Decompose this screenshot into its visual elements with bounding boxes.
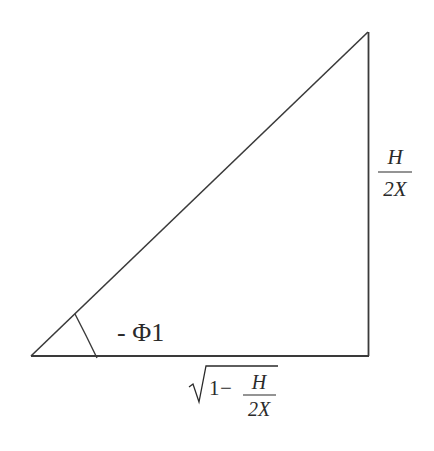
angle-label: - Φ1 — [117, 318, 164, 347]
horizontal-side-radical: 1 − H 2X — [189, 366, 278, 420]
radical-fraction-numerator: H — [251, 371, 268, 393]
radical-leading-one: 1 — [209, 376, 220, 400]
right-triangle-diagram: - Φ1 H 2X 1 − H 2X — [0, 0, 434, 451]
vertical-fraction-denominator: 2X — [383, 177, 408, 201]
angle-arc — [75, 314, 97, 358]
vertical-fraction-numerator: H — [386, 145, 404, 169]
hypotenuse-line — [31, 32, 368, 356]
radical-minus-operator: − — [220, 376, 232, 400]
vertical-side-fraction: H 2X — [378, 145, 412, 201]
radical-fraction-denominator: 2X — [248, 398, 271, 420]
